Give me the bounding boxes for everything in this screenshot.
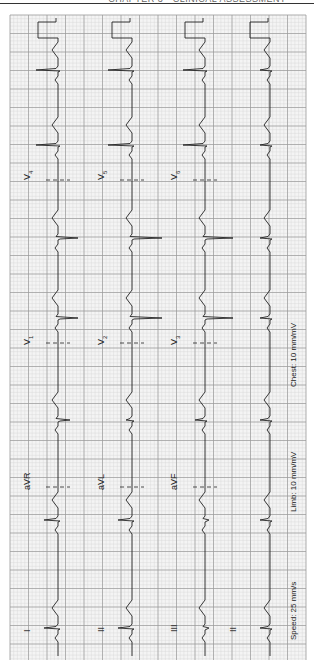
chest-gain-label: Chest: 10 mm/mV [289, 322, 298, 387]
lead-label-ii: II [96, 627, 106, 632]
limb-gain-label: Limb: 10 mm/mV [289, 451, 298, 512]
lead-label-avl: aVL [96, 474, 106, 490]
ecg-grid [10, 15, 306, 660]
lead-label-ii-rhythm: II [228, 627, 238, 632]
lead-label-avf: aVF [169, 473, 179, 490]
lead-label-i: I [22, 629, 32, 632]
lead-label-iii: III [169, 624, 179, 632]
lead-label-avr: aVR [22, 472, 32, 490]
speed-label: Speed: 25 mm/s [289, 582, 298, 640]
ecg-tracing: IaVRV1V4IIaVLV2V5IIIaVFV3V6II Speed: 25 … [0, 0, 314, 672]
ecg-settings: Speed: 25 mm/s Limb: 10 mm/mV Chest: 10 … [289, 322, 298, 640]
